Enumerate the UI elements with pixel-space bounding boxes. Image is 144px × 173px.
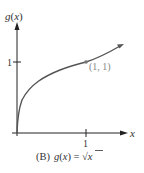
figure-caption: (B)g(x) = √x xyxy=(36,151,93,163)
y-axis-arrow-icon xyxy=(15,22,20,30)
point-1-1 xyxy=(84,60,88,64)
x-axis-label: x xyxy=(129,127,135,139)
point-annotation: (1, 1) xyxy=(89,61,111,73)
sqrt-curve xyxy=(17,46,120,133)
y-tick-label: 1 xyxy=(7,57,12,68)
sqrt-function-graph: g(x) x 1 1 (1, 1) (B)g(x) = √x xyxy=(0,0,144,173)
x-axis-arrow-icon xyxy=(120,131,128,136)
y-axis-label: g(x) xyxy=(5,10,23,23)
x-tick-label: 1 xyxy=(83,138,88,149)
